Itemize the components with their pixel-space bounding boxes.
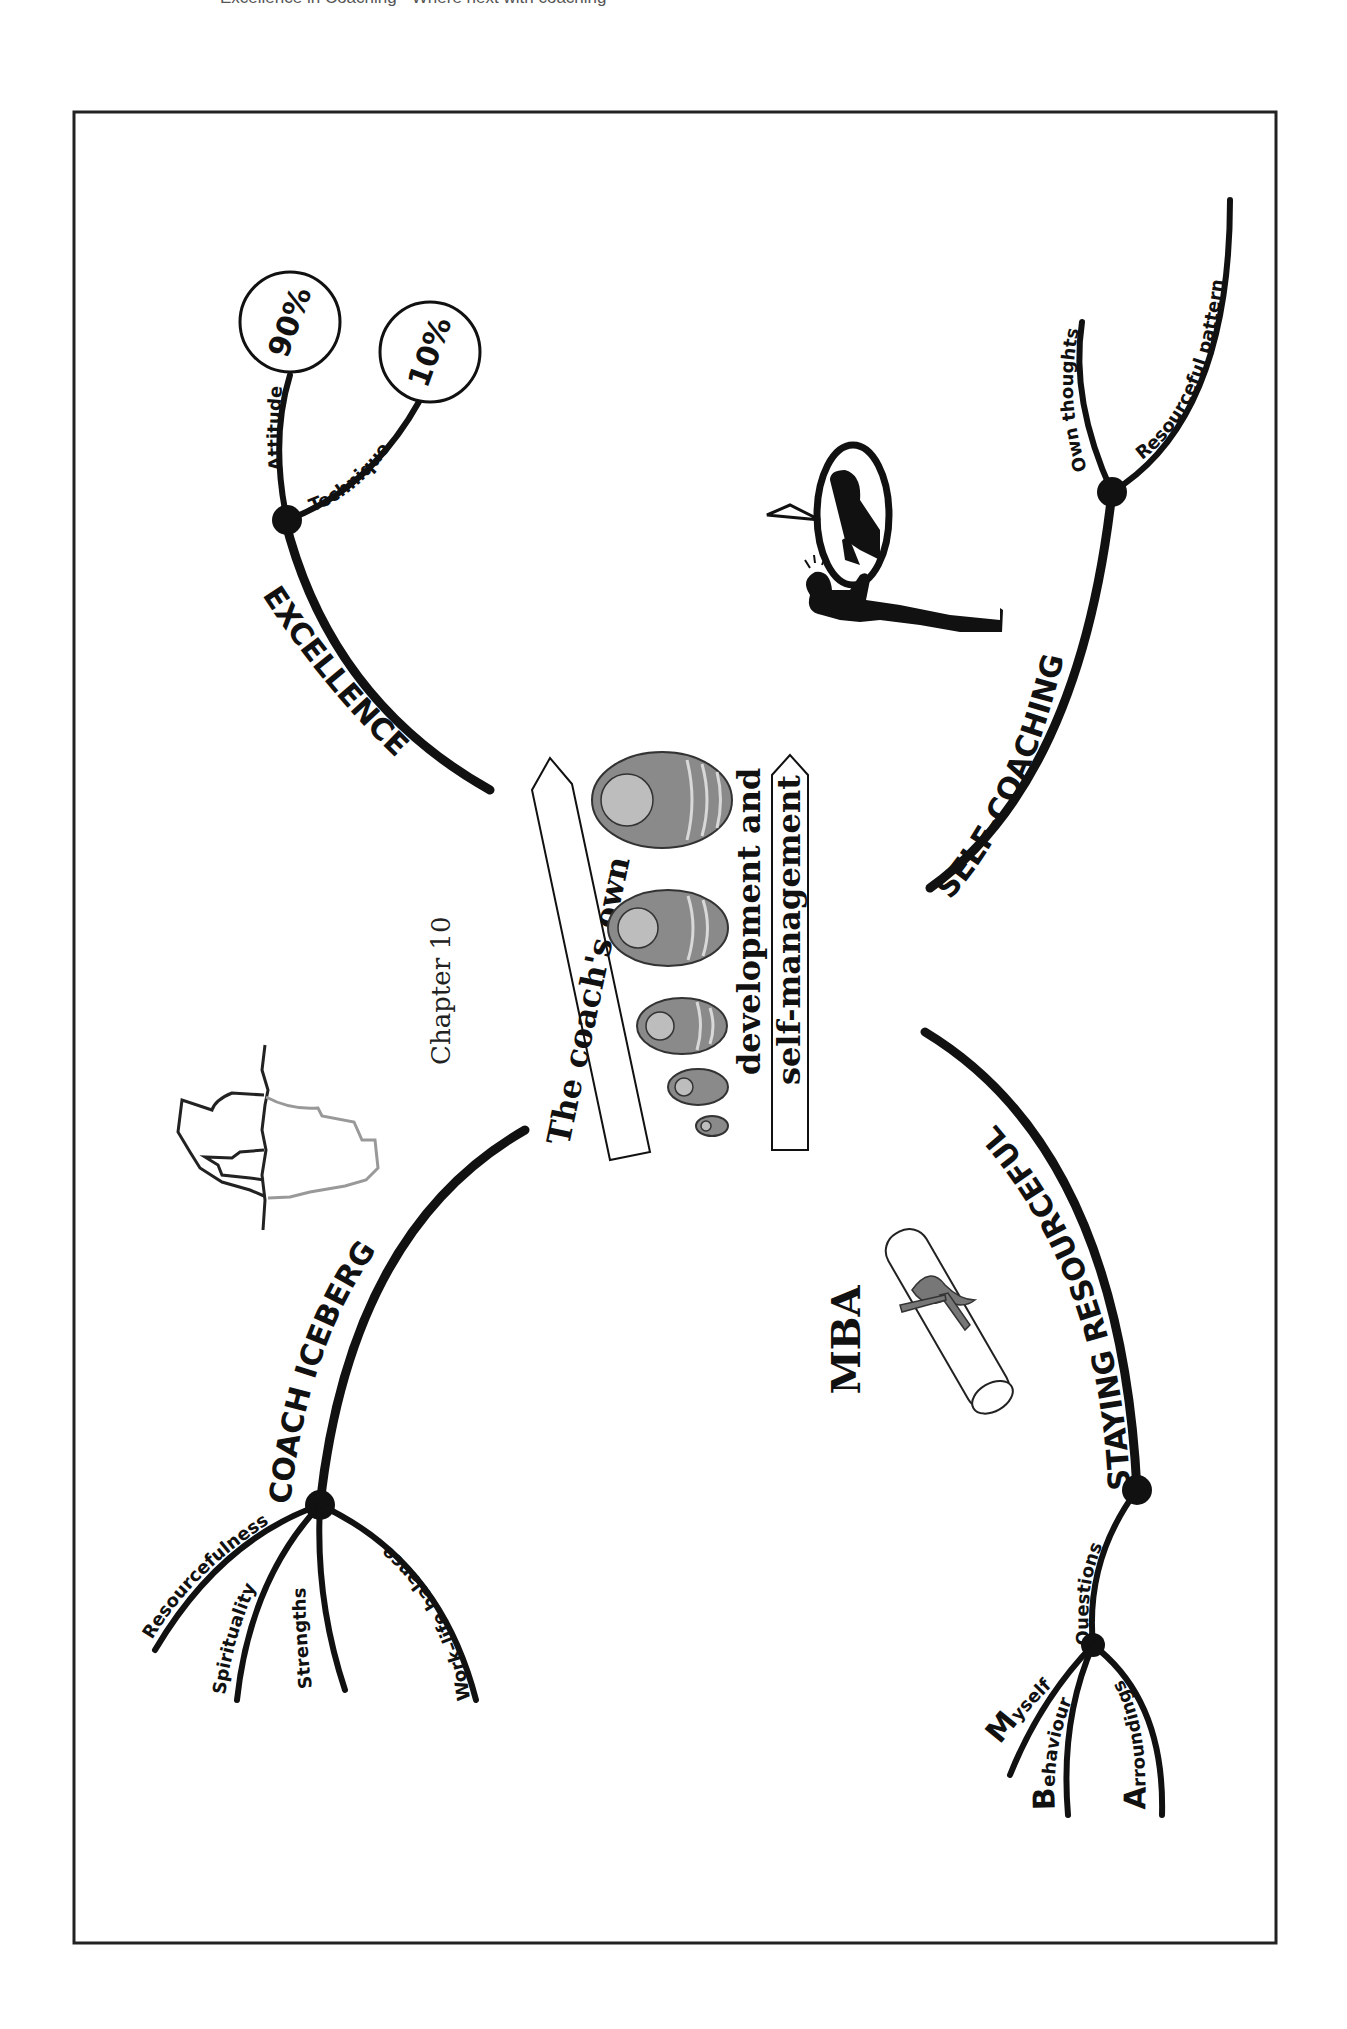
label-arroundings: Arroundings: [1107, 1677, 1152, 1810]
label-excellence: EXCELLENCE: [256, 580, 416, 763]
center-title-block: Chapter 10 The coach's own development a…: [426, 752, 808, 1160]
label-self-coaching: SELF-COACHING: [929, 650, 1071, 904]
branch-self-coaching: SELF-COACHING Own thoughts Resourceful p…: [929, 200, 1230, 905]
label-questions: Questions: [1071, 1539, 1106, 1646]
iceberg-icon: [178, 1045, 378, 1230]
branch-coach-iceberg: COACH ICEBERG Resourcefulness Spirituali…: [138, 1130, 525, 1703]
mba-label: MBA: [822, 1284, 869, 1394]
label-work-life-balance: Work–life balance: [377, 1542, 475, 1702]
branch-staying-resourceful: STAYING RESOURCEFUL Questions Myself Beh…: [925, 1032, 1162, 1815]
self-talk-silhouette-icon: [767, 445, 1003, 632]
chapter-label: Chapter 10: [426, 917, 456, 1065]
mba-diploma: MBA: [822, 1222, 1019, 1421]
label-resourceful-pattern: Resourceful pattern: [1131, 278, 1227, 463]
diploma-scroll-icon: [878, 1222, 1018, 1421]
label-strengths: Strengths: [288, 1588, 315, 1690]
label-spirituality: Spirituality: [208, 1579, 260, 1695]
center-title-line2: development and: [730, 768, 768, 1075]
mind-map: EXCELLENCE Attitude Technique 90% 10% SE…: [0, 0, 1347, 2029]
center-title-line3: self-management: [770, 775, 808, 1085]
label-technique: Technique: [306, 438, 394, 516]
branch-excellence: EXCELLENCE Attitude Technique 90% 10%: [240, 272, 490, 790]
label-attitude: Attitude: [263, 385, 286, 472]
